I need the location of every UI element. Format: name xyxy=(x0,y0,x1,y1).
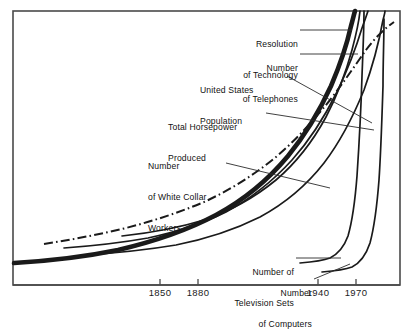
leader-line-number-of-computers xyxy=(314,264,350,279)
x-axis-tick-label-1850: 1850 xyxy=(149,287,172,298)
x-axis-tick-label-1970: 1970 xyxy=(345,287,368,298)
annotation-number-of-computers: Number of Computers xyxy=(212,267,312,333)
annotation-line-1: United States xyxy=(200,85,300,95)
annotation-line-1: Number xyxy=(148,161,248,171)
annotation-number-of-white-collar-workers: Number of White Collar Workers xyxy=(148,140,248,254)
annotation-line-1: Number xyxy=(212,288,312,298)
annotation-line-1: Total Horsepower xyxy=(168,122,278,132)
annotation-line-2: of White Collar xyxy=(148,192,248,202)
annotation-line-2: of Computers xyxy=(212,319,312,329)
annotation-line-3: Workers xyxy=(148,223,248,233)
